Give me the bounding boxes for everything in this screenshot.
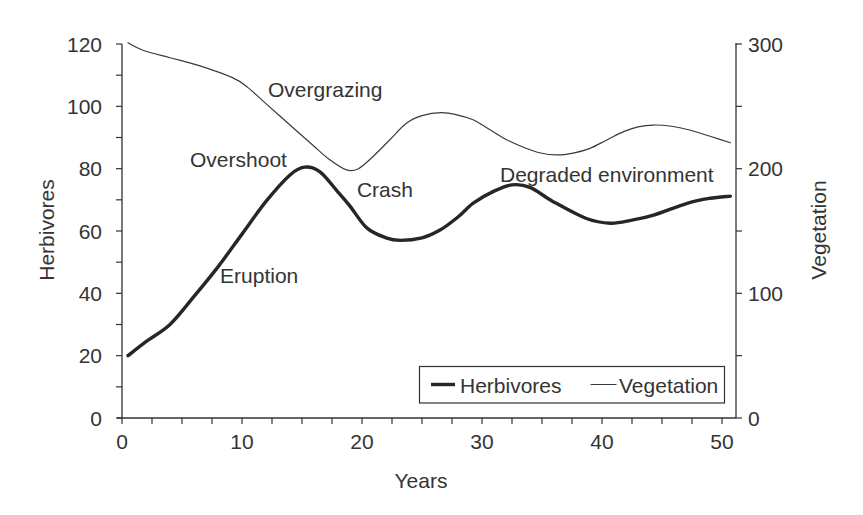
x-tick-label: 30 [470,430,493,453]
right-axis-ticks: 0100200300 [736,33,783,430]
right-tick-label: 0 [748,407,760,430]
legend-vegetation-label: Vegetation [619,374,718,397]
x-tick-label: 10 [230,430,253,453]
axes [117,43,736,418]
right-tick-label: 100 [748,282,783,305]
x-axis-label-years: Years [395,469,448,492]
left-tick-label: 20 [79,344,102,367]
right-tick-label: 200 [748,157,783,180]
x-tick-label: 40 [590,430,613,453]
right-tick-label: 300 [748,33,783,56]
left-tick-label: 80 [79,157,102,180]
legend-herbivores-label: Herbivores [460,374,562,397]
y-axis-label-herbivores: Herbivores [35,179,58,281]
y2-axis-label-vegetation: Vegetation [807,180,830,279]
legend: Herbivores Vegetation [420,367,725,404]
left-tick-label: 60 [79,220,102,243]
annotations: OvergrazingOvershootCrashDegraded enviro… [190,78,714,287]
annotation-degraded-environment: Degraded environment [500,163,714,186]
x-tick-label: 50 [710,430,733,453]
annotation-overshoot: Overshoot [190,148,287,171]
annotation-crash: Crash [357,178,413,201]
left-axis-ticks: 020406080100120 [67,33,122,430]
x-axis-ticks: 01020304050 [116,418,734,453]
herbivore-vegetation-chart: 020406080100120 01020304050 0100200300 H… [0,0,863,515]
annotation-overgrazing: Overgrazing [268,78,382,101]
left-tick-label: 100 [67,95,102,118]
left-tick-label: 120 [67,33,102,56]
left-tick-label: 40 [79,282,102,305]
x-tick-label: 0 [116,430,128,453]
left-tick-label: 0 [90,407,102,430]
herbivores-line [128,167,730,356]
x-tick-label: 20 [350,430,373,453]
annotation-eruption: Eruption [220,264,298,287]
